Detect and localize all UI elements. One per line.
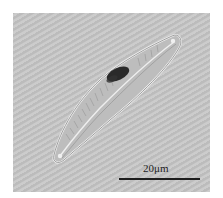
apical-nodule [58,154,62,158]
apical-nodule [171,39,175,43]
scale-bar [119,178,200,180]
diatom-outline [54,35,181,162]
diatom-cell [0,0,223,198]
scale-bar-label: 20μm [143,162,168,174]
